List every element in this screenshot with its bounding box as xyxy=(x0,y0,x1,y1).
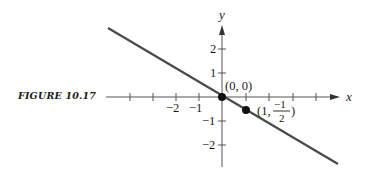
y-tick-label-2: 2 xyxy=(210,42,216,56)
coordinate-plane: x −2 −1 y 2 1 −1 −2 (0, 0) (1, −1 2 ) xyxy=(0,0,369,177)
x-tick-label-neg2: −2 xyxy=(166,101,179,115)
point-1-neg-half xyxy=(242,106,250,114)
x-axis-label: x xyxy=(345,89,352,104)
x-tick-label-neg1: −1 xyxy=(189,101,202,115)
y-axis-arrow-icon xyxy=(219,25,225,35)
x-axis-arrow-icon xyxy=(330,94,340,100)
y-tick-label-1: 1 xyxy=(210,66,216,80)
point-origin-label: (0, 0) xyxy=(225,79,252,93)
point-origin xyxy=(218,93,226,101)
y-tick-label-neg2: −2 xyxy=(202,138,215,152)
svg-text:): ) xyxy=(291,104,295,118)
y-axis-label: y xyxy=(217,7,225,22)
y-axis: y 2 1 −1 −2 xyxy=(202,7,226,167)
svg-text:−1: −1 xyxy=(274,98,286,110)
svg-text:2: 2 xyxy=(279,112,285,124)
y-tick-label-neg1: −1 xyxy=(202,114,215,128)
svg-text:(1,: (1, xyxy=(257,104,271,118)
